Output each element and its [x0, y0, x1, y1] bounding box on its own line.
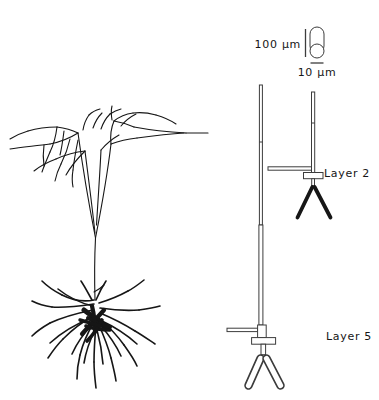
cylinder-compartment-icon: [310, 27, 324, 58]
layer5-label: Layer 5: [326, 330, 372, 343]
layer5-soma-stem: [261, 344, 266, 355]
scale-10um-label: 10 μm: [294, 66, 340, 79]
layer5-apical-base: [258, 325, 267, 338]
layer2-soma: [304, 173, 324, 179]
layer5-oblique-dendrite: [227, 328, 258, 331]
layer2-oblique-dendrite: [268, 167, 312, 170]
layer2-soma-stem: [312, 179, 315, 186]
figure-canvas: 100 μm 10 μm Layer 2 Layer 5: [0, 0, 379, 400]
layer5-soma: [252, 338, 276, 345]
layer5-apical-dendrite-upper: [259, 85, 262, 225]
layer2-label: Layer 2: [324, 167, 370, 180]
pyramidal-neuron-drawing: [10, 106, 208, 388]
scale-100um-label: 100 μm: [235, 38, 301, 51]
layer2-model: [268, 92, 331, 218]
layer2-basal-dendrite-right: [315, 187, 331, 218]
layer5-apical-dendrite-lower: [259, 225, 263, 325]
layer2-apical-dendrite: [312, 92, 315, 173]
layer5-model: [227, 85, 281, 386]
figure-artwork: [0, 0, 379, 400]
layer2-basal-dendrite-left: [298, 187, 313, 218]
scale-legend: [306, 27, 325, 63]
